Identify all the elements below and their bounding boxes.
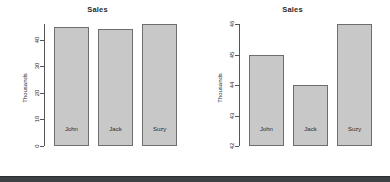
figure-canvas: Sales Thousands 010203040 JohnJackSuzy S… (0, 0, 390, 182)
category-label-john: John (260, 126, 273, 132)
bar-jack (293, 85, 328, 146)
y-tick-label: 40 (34, 37, 40, 44)
chart-panels: Sales Thousands 010203040 JohnJackSuzy S… (0, 0, 390, 176)
y-tick-mark (235, 116, 239, 117)
chart-panel-left: Sales Thousands 010203040 JohnJackSuzy (0, 0, 195, 176)
y-axis-label-right: Thousands (217, 73, 223, 103)
category-label-suzy: Suzy (348, 126, 361, 132)
y-tick-label: 10 (34, 116, 40, 123)
y-tick-mark (40, 40, 44, 41)
y-tick-label: 43 (229, 112, 235, 119)
y-tick-label: 46 (229, 21, 235, 28)
y-axis-label-left: Thousands (22, 73, 28, 103)
y-tick-label: 44 (229, 82, 235, 89)
y-tick-mark (235, 146, 239, 147)
y-tick-label: 42 (229, 143, 235, 150)
y-tick-mark (40, 66, 44, 67)
bar-john (249, 55, 284, 147)
y-tick-label: 30 (34, 63, 40, 70)
chart-title-right: Sales (195, 5, 390, 14)
y-tick-mark (40, 119, 44, 120)
category-label-john: John (65, 126, 78, 132)
chart-title-left: Sales (0, 5, 195, 14)
y-tick-mark (235, 55, 239, 56)
y-tick-label: 45 (229, 51, 235, 58)
y-tick-mark (40, 93, 44, 94)
category-label-suzy: Suzy (153, 126, 166, 132)
y-tick-mark (235, 85, 239, 86)
y-tick-label: 0 (34, 144, 40, 147)
bottom-chrome-divider (0, 176, 390, 177)
bottom-chrome-bar (0, 176, 390, 182)
y-tick-mark (40, 146, 44, 147)
category-label-jack: Jack (109, 126, 121, 132)
y-tick-mark (235, 24, 239, 25)
chart-panel-right: Sales Thousands 4243444546 JohnJackSuzy (195, 0, 390, 176)
y-tick-label: 20 (34, 90, 40, 97)
category-label-jack: Jack (304, 126, 316, 132)
